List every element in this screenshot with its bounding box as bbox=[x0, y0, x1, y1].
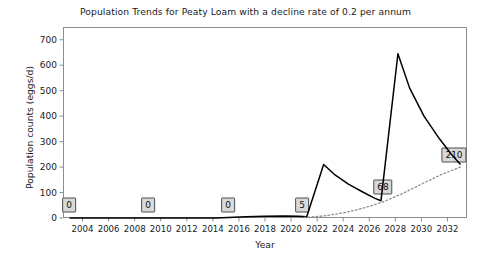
y-tick-label: 200 bbox=[17, 162, 57, 172]
data-label: 210 bbox=[441, 148, 466, 163]
y-tick-label: 400 bbox=[17, 111, 57, 121]
data-label: 0 bbox=[221, 198, 235, 213]
y-tick-label: 300 bbox=[17, 137, 57, 147]
chart-title: Population Trends for Peaty Loam with a … bbox=[0, 6, 491, 17]
y-tick-label: 600 bbox=[17, 60, 57, 70]
data-label: 0 bbox=[62, 198, 76, 213]
chart-page: Population Trends for Peaty Loam with a … bbox=[0, 0, 491, 261]
y-tick-label: 100 bbox=[17, 188, 57, 198]
x-tick-label: 2032 bbox=[430, 224, 464, 234]
data-label: 0 bbox=[141, 198, 155, 213]
y-tick-label: 700 bbox=[17, 35, 57, 45]
y-tick-label: 500 bbox=[17, 86, 57, 96]
data-label: 5 bbox=[295, 198, 309, 213]
x-axis-label: Year bbox=[63, 239, 467, 250]
y-tick-label: 0 bbox=[17, 213, 57, 223]
data-label: 68 bbox=[373, 180, 392, 195]
plot-area bbox=[63, 27, 467, 218]
